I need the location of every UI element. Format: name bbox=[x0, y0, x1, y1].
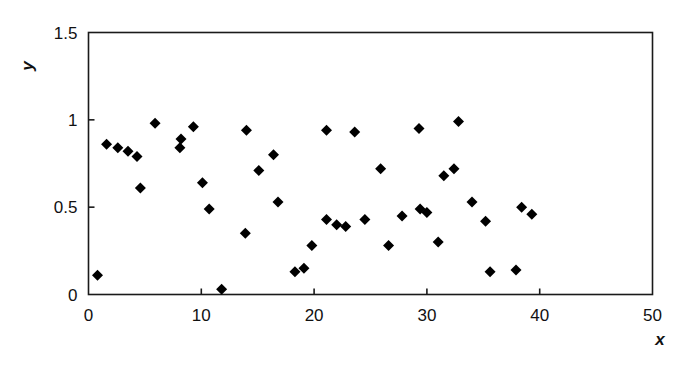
x-tick-label-10: 10 bbox=[192, 306, 211, 325]
y-tick-label-0: 0 bbox=[68, 286, 77, 305]
x-axis-label: x bbox=[654, 330, 666, 349]
y-tick-label-0.5: 0.5 bbox=[54, 198, 78, 217]
y-tick-label-1: 1 bbox=[68, 111, 77, 130]
x-tick-label-0: 0 bbox=[84, 306, 93, 325]
y-axis-label: y bbox=[18, 60, 37, 72]
x-tick-label-30: 30 bbox=[417, 306, 436, 325]
x-tick-label-20: 20 bbox=[305, 306, 324, 325]
figure-background bbox=[0, 0, 686, 366]
plot-canvas: 01020304050 00.511.5 x y bbox=[0, 0, 686, 366]
x-tick-label-40: 40 bbox=[530, 306, 549, 325]
y-tick-label-1.5: 1.5 bbox=[54, 24, 78, 43]
x-tick-label-50: 50 bbox=[643, 306, 662, 325]
scatter-plot-figure: 01020304050 00.511.5 x y bbox=[0, 0, 686, 366]
